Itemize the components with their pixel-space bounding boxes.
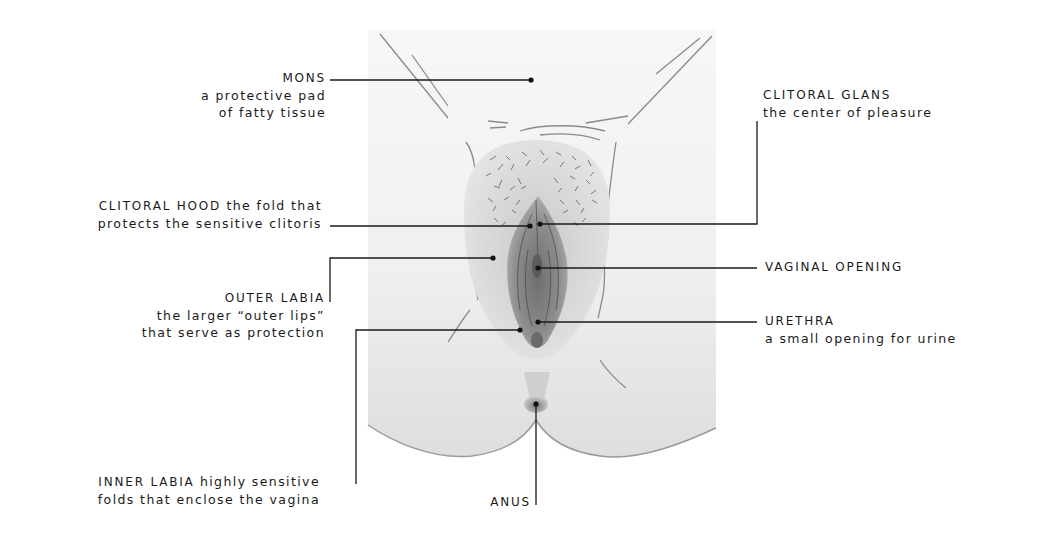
label-clitoral-glans-desc-1: the center of pleasure bbox=[763, 104, 932, 121]
label-clitoral-hood: CLITORAL HOOD the fold that protects the… bbox=[98, 197, 322, 232]
label-clitoral-hood-desc-1: protects the sensitive clitoris bbox=[98, 215, 322, 232]
label-urethra-title: URETHRA bbox=[765, 313, 957, 330]
label-mons-title: MONS bbox=[201, 70, 326, 87]
label-inner-labia-title: INNER LABIA bbox=[98, 475, 194, 489]
label-mons-desc-1: a protective pad bbox=[201, 87, 326, 104]
label-mons: MONS a protective pad of fatty tissue bbox=[201, 70, 326, 121]
label-mons-desc-2: of fatty tissue bbox=[201, 104, 326, 121]
label-clitoral-hood-title: CLITORAL HOOD bbox=[99, 199, 222, 213]
label-clitoral-glans-title: CLITORAL GLANS bbox=[763, 87, 932, 104]
label-outer-labia-desc-2: that serve as protection bbox=[142, 324, 325, 341]
label-anus: ANUS bbox=[490, 494, 531, 511]
label-outer-labia-title: OUTER LABIA bbox=[142, 290, 325, 307]
label-urethra-desc-1: a small opening for urine bbox=[765, 330, 957, 347]
label-outer-labia: OUTER LABIA the larger “outer lips” that… bbox=[142, 290, 325, 341]
label-vaginal-opening-title: VAGINAL OPENING bbox=[765, 259, 903, 276]
label-anus-title: ANUS bbox=[490, 494, 531, 511]
label-outer-labia-desc-1: the larger “outer lips” bbox=[142, 307, 325, 324]
label-vaginal-opening: VAGINAL OPENING bbox=[765, 259, 903, 276]
label-clitoral-glans: CLITORAL GLANS the center of pleasure bbox=[763, 87, 932, 121]
label-inner-labia-desc-1: folds that enclose the vagina bbox=[98, 491, 320, 508]
label-inner-labia-title-suffix: highly sensitive bbox=[195, 474, 320, 489]
label-clitoral-hood-title-suffix: the fold that bbox=[221, 198, 322, 213]
label-urethra: URETHRA a small opening for urine bbox=[765, 313, 957, 347]
label-inner-labia: INNER LABIA highly sensitive folds that … bbox=[98, 473, 320, 508]
